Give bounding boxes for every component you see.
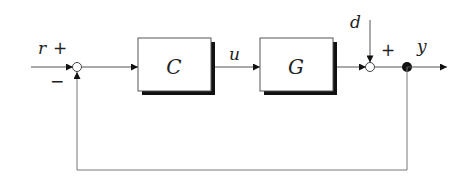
label-u: u [229, 44, 240, 64]
plant-block: G [260, 38, 337, 95]
label-d: d [350, 12, 361, 32]
feedback-path [77, 67, 407, 170]
label-y: y [416, 36, 427, 56]
summing-junction-2 [366, 63, 375, 72]
block-diagram: r + − C u G d + y [0, 0, 473, 181]
controller-block: C [138, 38, 215, 95]
plant-label: G [288, 55, 304, 79]
controller-label: C [166, 55, 181, 79]
sign-plus-r: + [53, 38, 67, 58]
summing-junction-1 [73, 63, 82, 72]
sign-plus-d: + [381, 40, 395, 60]
label-r: r [38, 38, 47, 58]
sign-minus-feedback: − [50, 71, 64, 91]
